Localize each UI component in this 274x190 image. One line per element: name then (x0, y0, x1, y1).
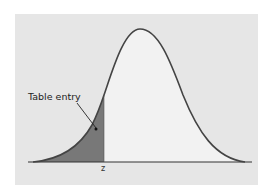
annotation-arrow (77, 103, 96, 128)
table-entry-label: Table entry (28, 91, 81, 102)
shaded-area (33, 95, 104, 162)
z-axis-label: z (101, 164, 105, 173)
unshaded-area (104, 29, 245, 162)
arrow-head-icon (95, 128, 98, 131)
